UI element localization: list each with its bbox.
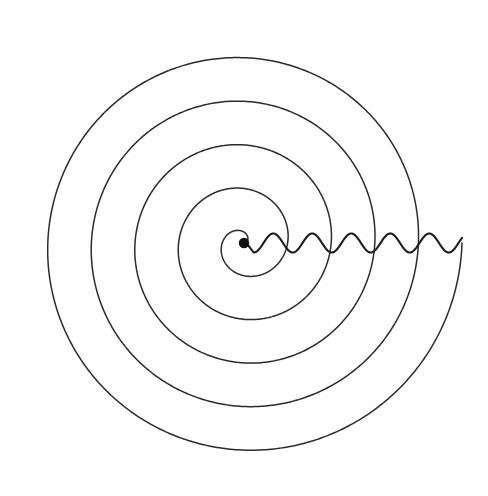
origin-dot xyxy=(239,238,249,248)
figure-root xyxy=(0,0,488,496)
spiral-wave-diagram xyxy=(0,0,488,496)
